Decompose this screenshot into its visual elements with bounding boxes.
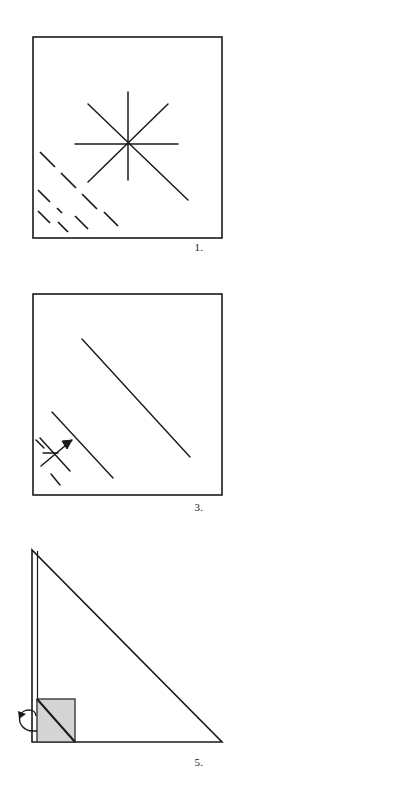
figure-1 xyxy=(0,30,398,245)
figure-5-caption: 5. xyxy=(0,756,398,768)
figure-3-caption: 3. xyxy=(0,501,398,513)
figure-3-canvas xyxy=(0,288,398,500)
figure-5 xyxy=(0,540,398,752)
square-outline xyxy=(33,294,222,495)
figure-1-caption: 1. xyxy=(0,241,398,253)
figure-3 xyxy=(0,288,398,500)
figure-1-canvas xyxy=(0,30,398,245)
figure-5-canvas xyxy=(0,540,398,752)
figure-page: 1. 3. xyxy=(0,0,398,803)
